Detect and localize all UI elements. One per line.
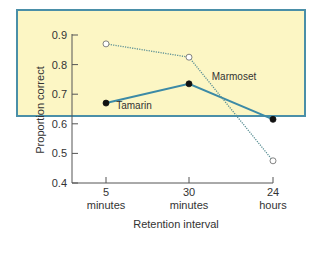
y-tick-label: 0.7 (52, 88, 67, 100)
x-tick-value: 24 (267, 186, 279, 198)
marmoset-point (103, 41, 109, 47)
x-tick-unit: minutes (87, 199, 126, 211)
marmoset-point (270, 158, 276, 164)
y-tick-label: 0.8 (52, 59, 67, 71)
y-ticks: 0.40.50.60.70.80.9 (52, 29, 78, 189)
axes (72, 34, 273, 183)
tamarin-point (103, 100, 109, 106)
x-axis-label: Retention interval (133, 218, 219, 230)
x-ticks: 5minutes30minutes24hours (87, 177, 288, 211)
y-tick-label: 0.5 (52, 147, 67, 159)
marmoset-point (186, 54, 192, 60)
y-axis-label: Proportion correct (34, 66, 46, 153)
y-tick-label: 0.9 (52, 29, 67, 41)
tamarin-point (270, 116, 276, 122)
x-tick-unit: hours (259, 199, 287, 211)
x-tick-unit: minutes (170, 199, 209, 211)
y-tick-label: 0.4 (52, 177, 67, 189)
tamarin-point (186, 81, 192, 87)
x-tick-value: 5 (103, 186, 109, 198)
series-group: TamarinMarmoset (103, 41, 276, 164)
x-tick-value: 30 (183, 186, 195, 198)
marmoset-label: Marmoset (212, 71, 257, 82)
tamarin-label: Tamarin (116, 100, 152, 111)
line-chart: 0.40.50.60.70.80.9 5minutes30minutes24ho… (0, 0, 319, 258)
y-tick-label: 0.6 (52, 118, 67, 130)
